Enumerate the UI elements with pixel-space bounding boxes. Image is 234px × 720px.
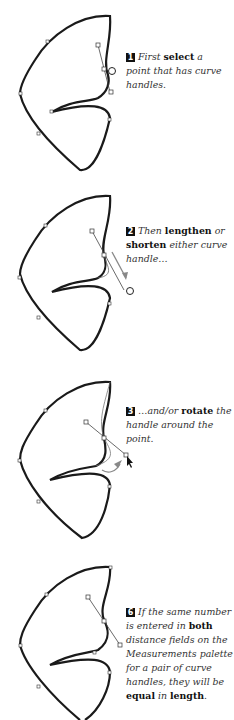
- hand-cursor-icon: [127, 288, 134, 295]
- step-number-badge: 6: [126, 608, 135, 617]
- arrow-cursor-icon: [127, 456, 133, 468]
- bezier-shape-illustration: [0, 180, 234, 360]
- step-2-panel: 2Then lengthen or shorten either curve h…: [0, 180, 234, 360]
- step-number-badge: 2: [126, 227, 135, 236]
- handle-point-icon: [109, 90, 113, 94]
- step-1-panel: 1First select a point that has curve han…: [0, 0, 234, 180]
- handle-point-icon: [96, 43, 100, 47]
- bezier-shape-illustration: [0, 360, 234, 540]
- step-6-caption: 6If the same number is entered in both d…: [126, 605, 234, 703]
- step-3-caption: 3…and/or rotate the handle around the po…: [126, 404, 232, 446]
- step-1-caption: 1First select a point that has curve han…: [126, 50, 230, 92]
- anchor-point-icon: [102, 67, 106, 71]
- step-number-badge: 1: [126, 53, 135, 62]
- step-3-panel: 3…and/or rotate the handle around the po…: [0, 360, 234, 540]
- step-number-badge: 3: [126, 407, 135, 416]
- step-2-caption: 2Then lengthen or shorten either curve h…: [126, 224, 232, 266]
- step-6-panel: 6If the same number is entered in both d…: [0, 540, 234, 720]
- hand-cursor-icon: [109, 68, 116, 75]
